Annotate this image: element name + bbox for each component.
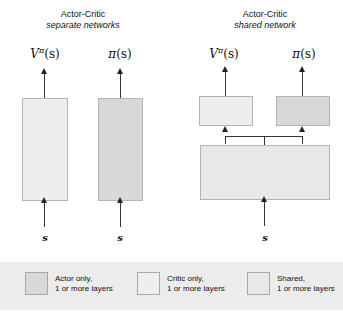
arrow-shaft-actor-output-right (302, 70, 303, 96)
legend-label-shared-line2: 1 or more layers (277, 284, 335, 294)
arrow-shaft-actor-output-left (120, 72, 121, 98)
arrow-shaft-critic-output-right (225, 70, 226, 96)
arrowhead-actor-input-left (117, 197, 123, 203)
panel-title-separate-networks: Actor-Critic separate networks (18, 9, 148, 31)
legend-swatch-actor-icon (25, 272, 48, 295)
legend-item-critic-only: Critic only, 1 or more layers (137, 272, 225, 295)
arrowhead-actor-output-right (299, 66, 305, 72)
panel-title-line2: separate networks (18, 20, 148, 31)
critic-network-box-left (22, 98, 68, 201)
legend-label-shared: Shared, 1 or more layers (277, 274, 335, 293)
policy-symbol: π (292, 47, 300, 61)
connector-branch-to-critic-head (225, 136, 226, 144)
panel-title-line1: Actor-Critic (18, 9, 148, 20)
legend-item-actor-only: Actor only, 1 or more layers (25, 272, 113, 295)
arrowhead-shared-input-right (261, 196, 267, 202)
connector-branch-to-actor-head (302, 136, 303, 144)
policy-argument: (s) (300, 47, 316, 61)
legend-label-shared-line1: Shared, (277, 274, 335, 284)
legend-item-shared: Shared, 1 or more layers (247, 272, 335, 295)
panel-title-line1: Actor-Critic (198, 9, 332, 20)
arrow-shaft-actor-input-left (120, 201, 121, 227)
legend: Actor only, 1 or more layers Critic only… (0, 262, 343, 310)
arrow-shaft-shared-input-right (264, 200, 265, 226)
panel-title-line2: shared network (198, 20, 332, 31)
output-label-value-function-right: Vπ(s) (198, 47, 250, 61)
actor-critic-architecture-diagram: Actor-Critic separate networks Vπ(s) π(s… (0, 0, 343, 315)
input-label-state-shared-right: s (255, 232, 275, 243)
input-label-state-critic-left: s (35, 232, 55, 243)
value-argument: (s) (223, 47, 239, 61)
output-label-policy-right: π(s) (278, 47, 330, 61)
legend-swatch-critic-icon (137, 272, 160, 295)
arrowhead-to-actor-head (299, 126, 305, 132)
output-label-policy-left: π(s) (96, 47, 144, 61)
arrow-shaft-critic-input-left (44, 201, 45, 227)
output-label-value-function-left: Vπ(s) (20, 47, 70, 61)
arrowhead-critic-output-left (41, 68, 47, 74)
legend-swatch-shared-icon (247, 272, 270, 295)
panel-title-shared-network: Actor-Critic shared network (198, 9, 332, 31)
legend-label-actor-line2: 1 or more layers (55, 284, 113, 294)
arrowhead-critic-input-left (41, 197, 47, 203)
actor-network-box-left (98, 98, 143, 201)
legend-label-critic: Critic only, 1 or more layers (167, 274, 225, 293)
legend-label-actor: Actor only, 1 or more layers (55, 274, 113, 293)
policy-argument: (s) (116, 47, 132, 61)
value-symbol: V (209, 47, 218, 61)
arrowhead-to-critic-head (222, 126, 228, 132)
connector-bus-shared-split (225, 136, 303, 137)
value-symbol: V (30, 47, 39, 61)
arrowhead-actor-output-left (117, 68, 123, 74)
legend-label-actor-line1: Actor only, (55, 274, 113, 284)
critic-head-box-right (199, 96, 253, 126)
arrowhead-critic-output-right (222, 66, 228, 72)
input-label-state-actor-left: s (110, 232, 130, 243)
actor-head-box-right (276, 96, 330, 126)
value-argument: (s) (44, 47, 60, 61)
shared-trunk-box-right (200, 145, 330, 200)
policy-symbol: π (108, 47, 116, 61)
legend-label-critic-line1: Critic only, (167, 274, 225, 284)
legend-label-critic-line2: 1 or more layers (167, 284, 225, 294)
arrow-shaft-critic-output-left (44, 72, 45, 98)
